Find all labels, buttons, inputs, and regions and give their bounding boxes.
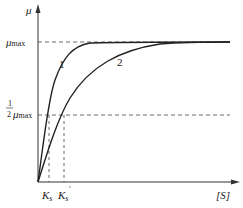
y-axis-arrow-icon (36, 4, 41, 13)
monod-chart: μ μmax 1 2 μmax Ks Ks' [S] 1 2 (0, 0, 243, 208)
x-axis-label: [S] (216, 189, 230, 201)
curve-2 (38, 42, 230, 182)
mu-max-label: μmax (5, 36, 25, 48)
x-axis-arrow-icon (231, 180, 240, 185)
half-denominator: 2 (7, 110, 11, 119)
half-numerator: 1 (8, 99, 12, 108)
curve-2-label: 2 (117, 56, 123, 68)
ks-prime-label: Ks' (57, 185, 70, 203)
ks-label: Ks (41, 189, 52, 203)
half-mu-max-label: μmax (12, 108, 32, 120)
curve-1-label: 1 (59, 58, 65, 70)
y-axis-label: μ (25, 4, 32, 16)
curve-1 (38, 42, 230, 182)
